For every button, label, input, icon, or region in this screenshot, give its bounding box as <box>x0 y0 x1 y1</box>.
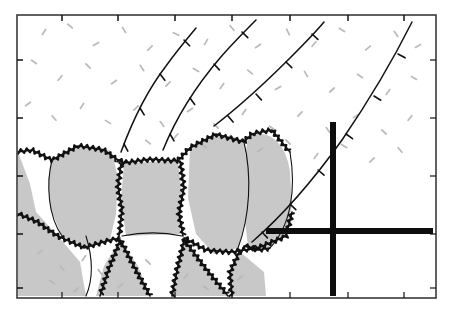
figure-canvas <box>0 0 456 317</box>
figure-root <box>0 0 456 317</box>
grain-grain-core <box>121 161 182 236</box>
